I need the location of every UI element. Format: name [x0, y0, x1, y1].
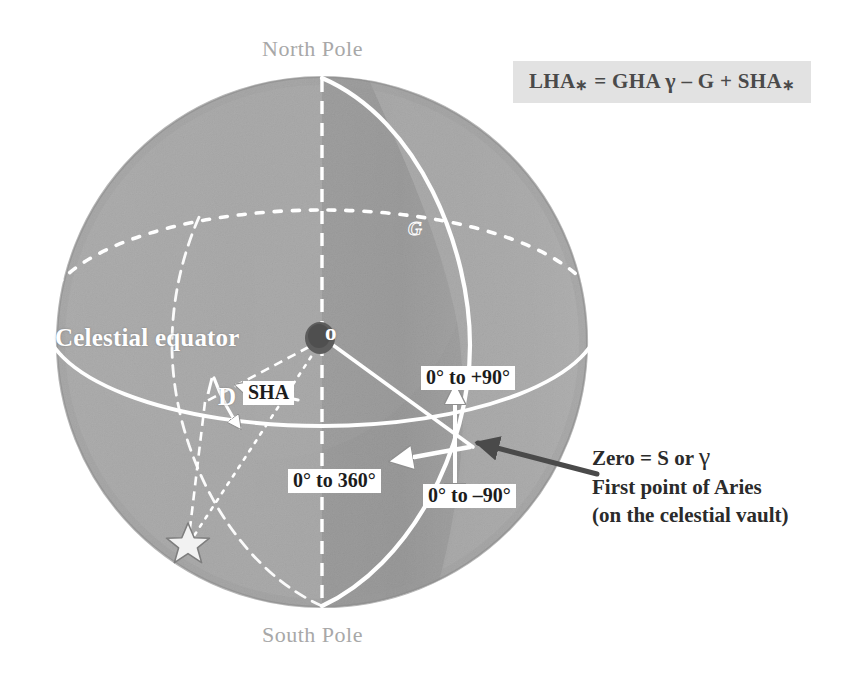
declination-north-range-label: 0° to +90°	[421, 366, 515, 390]
formula-lha: LHA	[529, 69, 575, 93]
annotation-line-2: First point of Aries	[592, 474, 789, 502]
formula-sha: SHA	[738, 69, 782, 93]
declination-label: D	[218, 383, 236, 411]
south-pole-label: South Pole	[262, 622, 363, 648]
formula-gamma: γ	[665, 68, 676, 93]
celestial-equator-label: Celestial equator	[55, 324, 240, 352]
annotation-line-3: (on the celestial vault)	[592, 502, 789, 530]
greenwich-meridian-label: G	[408, 218, 422, 240]
sha-label: SHA	[243, 381, 294, 405]
declination-south-range-label: 0° to –90°	[423, 484, 516, 508]
formula-g: G	[698, 69, 715, 93]
lha-formula-box: LHA∗ = GHA γ – G + SHA∗	[513, 61, 811, 103]
formula-gha: GHA	[612, 69, 665, 93]
annotation-gamma-symbol: γ	[699, 442, 711, 471]
formula-plus: +	[714, 69, 737, 93]
origin-point-label: o	[325, 320, 337, 346]
hour-angle-range-label: 0° to 360°	[288, 469, 381, 493]
formula-star-2: ∗	[782, 77, 795, 93]
annotation-line-1-prefix: Zero = S or	[592, 446, 699, 470]
diagram-canvas: North Pole South Pole LHA∗ = GHA γ – G +…	[0, 0, 864, 674]
formula-star-1: ∗	[575, 77, 588, 93]
north-pole-label: North Pole	[262, 36, 363, 62]
zero-point-annotation: Zero = S or γ First point of Aries (on t…	[592, 440, 789, 530]
formula-minus: –	[676, 69, 698, 93]
annotation-line-1: Zero = S or γ	[592, 440, 789, 474]
formula-equals: =	[589, 69, 612, 93]
